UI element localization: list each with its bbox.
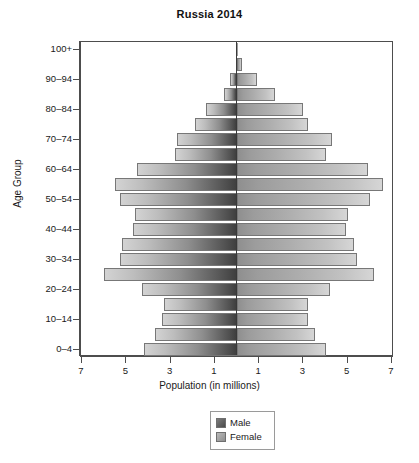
bar-male	[142, 283, 237, 296]
bar-female	[237, 208, 348, 221]
bar-female	[237, 328, 315, 341]
x-axis-tick-label: 3	[157, 365, 183, 376]
population-pyramid-figure: Russia 2014 100+90–9480–8470–7460–6450–5…	[0, 0, 419, 463]
bar-female	[237, 148, 326, 161]
x-axis-tick-label: 5	[112, 365, 138, 376]
bar-female	[237, 88, 275, 101]
x-axis-tick-label: 7	[68, 365, 94, 376]
bar-female	[237, 103, 303, 116]
bar-male	[155, 328, 237, 341]
x-axis-tick-mark	[81, 357, 82, 363]
bar-female	[237, 193, 370, 206]
x-axis-tick-mark	[125, 357, 126, 363]
legend-swatch-female-icon	[216, 432, 226, 442]
bar-female	[237, 178, 383, 191]
y-axis-tick-label: 90–94	[8, 73, 72, 84]
legend-swatch-male-icon	[216, 418, 226, 428]
y-axis-tick-label: 30–34	[8, 253, 72, 264]
legend-item-male[interactable]: Male	[216, 416, 269, 430]
bar-male	[224, 88, 237, 101]
y-axis-title: Age Group	[12, 139, 23, 229]
bar-male	[195, 118, 237, 131]
legend: MaleFemale	[210, 411, 275, 450]
y-axis-tick-label: 20–24	[8, 283, 72, 294]
bar-female	[237, 133, 332, 146]
y-axis-tick-group: 100+90–9480–8470–7460–6450–5440–4430–342…	[0, 0, 72, 463]
plot-area	[80, 41, 393, 356]
bar-male	[115, 178, 237, 191]
x-axis-tick-mark	[258, 357, 259, 363]
bar-male	[175, 148, 237, 161]
bar-female	[237, 163, 368, 176]
bar-male	[137, 163, 237, 176]
bar-female	[237, 118, 308, 131]
bar-female	[237, 73, 257, 86]
legend-label: Male	[230, 417, 251, 429]
bar-female	[237, 343, 326, 356]
x-axis-tick-label: 1	[201, 365, 227, 376]
y-axis-tick-label: 0–4	[8, 343, 72, 354]
bar-male	[162, 313, 237, 326]
y-axis-tick-label: 80–84	[8, 103, 72, 114]
bar-male	[144, 343, 237, 356]
bar-female	[237, 283, 330, 296]
bar-female	[237, 223, 346, 236]
bar-female	[237, 58, 242, 71]
bar-male	[164, 298, 237, 311]
y-axis-tick-label: 100+	[8, 43, 72, 54]
bar-male	[120, 193, 237, 206]
bar-male	[177, 133, 237, 146]
x-axis-tick-mark	[302, 357, 303, 363]
x-axis-tick-label: 7	[378, 365, 404, 376]
x-axis-tick-mark	[214, 357, 215, 363]
bar-male	[133, 223, 237, 236]
x-axis-tick-label: 1	[245, 365, 271, 376]
x-axis-title: Population (in millions)	[0, 380, 419, 391]
bar-male	[104, 268, 237, 281]
bar-male	[135, 208, 237, 221]
y-axis-tick-label: 10–14	[8, 313, 72, 324]
center-axis-line	[236, 42, 237, 355]
bar-female	[237, 43, 238, 56]
bar-female	[237, 298, 308, 311]
legend-item-female[interactable]: Female	[216, 430, 269, 444]
bar-male	[122, 238, 237, 251]
bar-male	[206, 103, 237, 116]
bar-female	[237, 268, 374, 281]
legend-label: Female	[230, 431, 262, 443]
bar-female	[237, 238, 354, 251]
x-axis-tick-mark	[391, 357, 392, 363]
x-axis-tick-label: 3	[289, 365, 315, 376]
bar-male	[120, 253, 237, 266]
bar-female	[237, 253, 357, 266]
x-axis-tick-label: 5	[334, 365, 360, 376]
bar-female	[237, 313, 308, 326]
x-axis-tick-mark	[347, 357, 348, 363]
x-axis-tick-mark	[170, 357, 171, 363]
